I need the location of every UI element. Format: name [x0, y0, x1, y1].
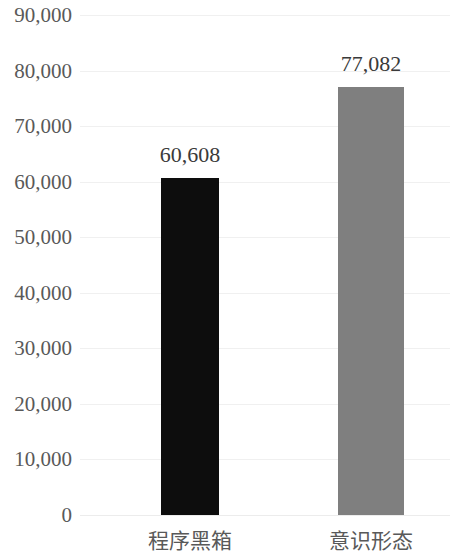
- bar-2[interactable]: [338, 87, 404, 515]
- bar-value-label: 77,082: [311, 53, 431, 75]
- y-axis-tick-label: 90,000: [0, 5, 72, 26]
- y-axis-tick-label: 80,000: [0, 61, 72, 82]
- y-axis-tick-label: 30,000: [0, 338, 72, 359]
- y-axis-tick-label: 70,000: [0, 116, 72, 137]
- bar-1[interactable]: [161, 178, 219, 515]
- x-axis-category-label: 意识形态: [311, 529, 431, 553]
- y-axis-tick-label: 60,000: [0, 172, 72, 193]
- gridline: [80, 15, 450, 16]
- bar-chart: 90,00080,00070,00060,00050,00040,00030,0…: [0, 0, 454, 555]
- y-axis-tick-label: 10,000: [0, 449, 72, 470]
- bar-value-label: 60,608: [130, 144, 250, 166]
- gridline: [80, 515, 450, 516]
- y-axis-tick-label: 40,000: [0, 283, 72, 304]
- x-axis-category-label: 程序黑箱: [130, 529, 250, 553]
- y-axis-tick-label: 0: [0, 505, 72, 526]
- y-axis-tick-label: 20,000: [0, 394, 72, 415]
- y-axis-tick-label: 50,000: [0, 227, 72, 248]
